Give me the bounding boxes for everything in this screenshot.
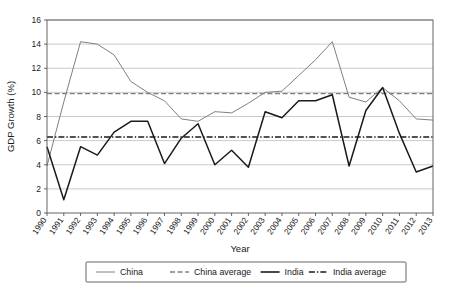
x-tick-label: 2004 [265, 215, 284, 236]
y-tick-label: 4 [36, 160, 41, 170]
x-tick-label: 1994 [97, 215, 116, 236]
x-tick-label: 2010 [366, 215, 385, 236]
x-tick-label: 2009 [349, 215, 368, 236]
y-tick-label: 6 [36, 136, 41, 146]
y-tick-label: 16 [32, 15, 42, 25]
y-axis-title: GDP Growth (%) [5, 81, 16, 152]
legend-label-china-average: China average [194, 267, 251, 277]
x-tick-label: 2005 [282, 215, 301, 236]
series-line-china [47, 42, 433, 166]
x-tick-label: 2011 [383, 215, 402, 236]
x-tick-label: 2013 [416, 215, 435, 236]
y-tick-label: 14 [32, 39, 42, 49]
y-tick-label: 10 [32, 87, 42, 97]
x-tick-label: 1991 [47, 215, 66, 236]
x-tick-label: 2002 [231, 215, 250, 236]
data-series-layer [47, 42, 433, 200]
gridlines [47, 20, 433, 189]
x-tick-label: 2008 [332, 215, 351, 236]
x-tick-label: 2006 [298, 215, 317, 236]
legend-label-india-average: India average [333, 267, 386, 277]
x-tick-label: 2007 [315, 215, 334, 236]
x-tick-label: 2001 [214, 215, 233, 236]
x-tick-label: 1993 [80, 215, 99, 236]
legend-label-india: India [285, 267, 304, 277]
x-tick-label: 1997 [147, 215, 166, 236]
gdp-growth-line-chart: 0246810121416 19901991199219931994199519… [0, 0, 457, 294]
y-axis-tick-labels: 0246810121416 [32, 15, 42, 218]
x-tick-label: 1992 [63, 215, 82, 236]
legend-label-china: China [120, 267, 143, 277]
chart-legend: ChinaChina averageIndiaIndia average [86, 262, 406, 282]
x-tick-label: 2000 [198, 215, 217, 236]
y-tick-label: 8 [36, 112, 41, 122]
x-tick-label: 2012 [399, 215, 418, 236]
x-axis-tick-labels: 1990199119921993199419951996199719981999… [30, 215, 435, 236]
x-tick-label: 1999 [181, 215, 200, 236]
x-tick-label: 1990 [30, 215, 49, 236]
series-line-india [47, 88, 433, 200]
x-tick-label: 1995 [114, 215, 133, 236]
x-tick-label: 2003 [248, 215, 267, 236]
chart-canvas: 0246810121416 19901991199219931994199519… [0, 0, 457, 294]
y-tick-label: 12 [32, 63, 42, 73]
x-axis-title: Year [230, 243, 249, 254]
x-tick-label: 1996 [131, 215, 150, 236]
y-tick-label: 2 [36, 184, 41, 194]
x-tick-label: 1998 [164, 215, 183, 236]
